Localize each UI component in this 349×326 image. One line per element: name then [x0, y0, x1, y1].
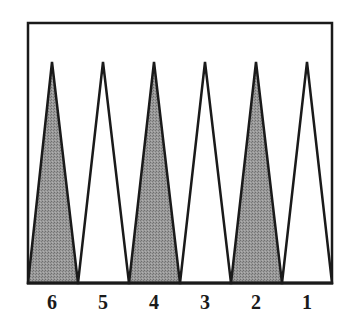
- point-label-3: 3: [200, 291, 210, 313]
- point-labels: 6 5 4 3 2 1: [47, 291, 312, 313]
- point-label-1: 1: [302, 291, 312, 313]
- point-label-6: 6: [47, 291, 57, 313]
- board-diagram: 6 5 4 3 2 1: [0, 0, 349, 326]
- point-label-5: 5: [98, 291, 108, 313]
- point-label-2: 2: [251, 291, 261, 313]
- point-label-4: 4: [149, 291, 159, 313]
